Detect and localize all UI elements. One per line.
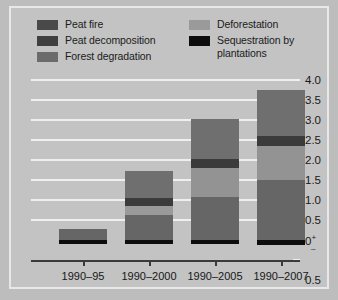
bar-segment bbox=[191, 197, 239, 240]
bar-segment bbox=[59, 229, 107, 240]
y-axis-label: 0.5 bbox=[305, 214, 321, 226]
bar-segment bbox=[191, 168, 239, 197]
peat-fire-swatch-icon bbox=[37, 20, 58, 30]
legend-label-sequestration: Sequestration by plantations bbox=[217, 34, 294, 59]
chart-frame: Peat fire Peat decomposition Forest degr… bbox=[9, 6, 329, 289]
bar-segment bbox=[125, 215, 173, 240]
gridline bbox=[31, 159, 293, 161]
chart-legend: Peat fire Peat decomposition Forest degr… bbox=[37, 18, 319, 70]
bar-segment bbox=[257, 136, 305, 146]
sequestration-swatch-icon bbox=[189, 36, 210, 46]
x-axis-line bbox=[31, 260, 300, 262]
bar-2 bbox=[125, 171, 173, 243]
legend-item-sequestration: Sequestration by plantations bbox=[189, 34, 319, 60]
bar-segment bbox=[191, 240, 239, 244]
x-axis-tick bbox=[281, 260, 283, 266]
legend-item-peat-fire: Peat fire bbox=[37, 18, 177, 31]
bar-segment bbox=[191, 119, 239, 159]
bar-segment bbox=[257, 240, 305, 245]
gridline bbox=[31, 79, 293, 81]
legend-column-left: Peat fire Peat decomposition Forest degr… bbox=[37, 18, 177, 66]
x-axis-tick bbox=[83, 260, 85, 266]
bar-segment bbox=[125, 206, 173, 216]
bar-3 bbox=[191, 119, 239, 244]
bar-1 bbox=[59, 229, 107, 244]
plot-area bbox=[31, 80, 293, 260]
legend-label-peat-fire: Peat fire bbox=[65, 18, 103, 31]
x-axis-label: 1990–2007 bbox=[253, 270, 308, 282]
chart-figure: Peat fire Peat decomposition Forest degr… bbox=[0, 0, 338, 300]
x-axis-tick bbox=[149, 260, 151, 266]
bar-segment bbox=[257, 90, 305, 136]
x-axis-label: 1990–95 bbox=[62, 270, 105, 282]
y-axis-tick bbox=[293, 79, 300, 81]
y-axis-label: 2.0 bbox=[305, 154, 321, 166]
bar-segment bbox=[257, 180, 305, 240]
bar-segment bbox=[125, 198, 173, 206]
legend-item-deforestation: Deforestation bbox=[189, 18, 319, 31]
legend-item-forest-degradation: Forest degradation bbox=[37, 50, 177, 63]
bar-segment bbox=[59, 240, 107, 244]
deforestation-swatch-icon bbox=[189, 20, 210, 30]
bar-segment bbox=[125, 171, 173, 198]
y-axis-label: 3.5 bbox=[305, 94, 321, 106]
bar-4 bbox=[257, 90, 305, 245]
y-axis-label: 4.0 bbox=[305, 74, 321, 86]
y-axis-zero-minus-sign: – bbox=[311, 244, 315, 253]
gridline bbox=[31, 119, 293, 121]
y-axis-label: 1.0 bbox=[305, 194, 321, 206]
x-axis-label: 1990–2005 bbox=[187, 270, 242, 282]
y-axis-label: 3.0 bbox=[305, 114, 321, 126]
legend-label-deforestation: Deforestation bbox=[217, 18, 278, 31]
legend-label-forest-degradation: Forest degradation bbox=[65, 50, 151, 63]
bar-segment bbox=[191, 159, 239, 168]
gridline bbox=[31, 99, 293, 101]
legend-label-peat-decomposition: Peat decomposition bbox=[65, 34, 155, 47]
y-axis-label: 1.5 bbox=[305, 174, 321, 186]
forest-degradation-swatch-icon bbox=[37, 52, 58, 62]
x-axis-tick bbox=[215, 260, 217, 266]
bar-segment bbox=[125, 240, 173, 244]
peat-decomposition-swatch-icon bbox=[37, 36, 58, 46]
gridline bbox=[31, 139, 293, 141]
legend-column-right: Deforestation Sequestration by plantatio… bbox=[189, 18, 319, 63]
bar-segment bbox=[257, 146, 305, 180]
legend-item-peat-decomposition: Peat decomposition bbox=[37, 34, 177, 47]
y-axis-label: 2.5 bbox=[305, 134, 321, 146]
x-axis-label: 1990–2000 bbox=[121, 270, 176, 282]
